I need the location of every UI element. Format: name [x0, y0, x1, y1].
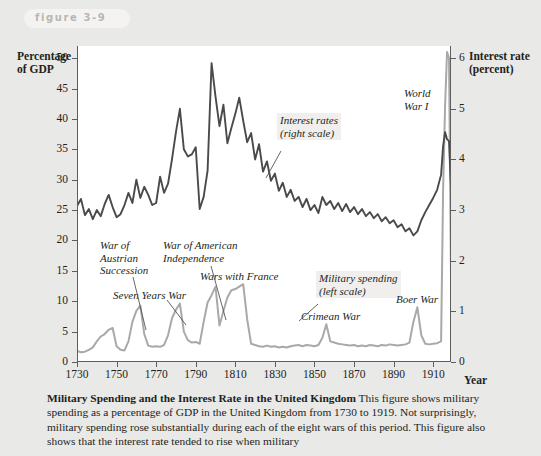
x-tick-label-1850: 1850	[294, 368, 334, 380]
x-tick-1750	[117, 362, 118, 367]
y-right-tick-0	[451, 362, 456, 363]
x-tick-1730	[77, 362, 78, 367]
y-right-tick-label-5: 5	[459, 102, 479, 114]
y-left-tick-10	[72, 301, 77, 302]
y-axis-right-title: Interest rate (percent)	[469, 50, 541, 76]
x-tick-label-1910: 1910	[413, 368, 453, 380]
y-left-tick-35	[72, 149, 77, 150]
y-left-tick-label-5: 5	[42, 325, 68, 337]
x-tick-1830	[275, 362, 276, 367]
chart-plot-area	[77, 46, 451, 362]
figure-root: figure 3-9 Percentage of GDP Interest ra…	[0, 0, 541, 456]
x-tick-label-1890: 1890	[374, 368, 414, 380]
y-left-tick-label-15: 15	[42, 264, 68, 276]
y-left-tick-label-40: 40	[42, 112, 68, 124]
y-right-tick-5	[451, 109, 456, 110]
figure-number-badge: figure 3-9	[24, 9, 130, 28]
y-left-tick-label-35: 35	[42, 142, 68, 154]
y-left-tick-label-50: 50	[42, 51, 68, 63]
x-tick-1770	[156, 362, 157, 367]
annotation-interest-rates-right-scale: Interest rates (right scale)	[277, 113, 341, 140]
y-left-tick-50	[72, 58, 77, 59]
x-tick-label-1810: 1810	[215, 368, 255, 380]
x-tick-label-1790: 1790	[176, 368, 216, 380]
y-left-tick-label-30: 30	[42, 173, 68, 185]
interest-rate-line	[77, 63, 451, 235]
x-tick-1850	[314, 362, 315, 367]
y-left-tick-label-45: 45	[42, 82, 68, 94]
figure-caption-lead: Military Spending and the Interest Rate …	[47, 392, 356, 404]
y-left-tick-5	[72, 332, 77, 333]
y-left-tick-45	[72, 89, 77, 90]
x-tick-label-1830: 1830	[255, 368, 295, 380]
plot-canvas	[77, 46, 451, 362]
annotation-war-of-american-independence: War of American Independence	[163, 239, 238, 264]
annotation-wars-with-france: Wars with France	[200, 270, 278, 283]
x-tick-1910	[433, 362, 434, 367]
y-left-tick-40	[72, 119, 77, 120]
y-right-tick-2	[451, 261, 456, 262]
y-right-tick-label-3: 3	[459, 203, 479, 215]
annotation-military-spending-left-scale: Military spending (left scale)	[316, 271, 401, 298]
y-left-tick-label-25: 25	[42, 203, 68, 215]
annotation-world-war-one: World War I	[404, 87, 431, 112]
x-tick-1810	[235, 362, 236, 367]
annotation-seven-years-war: Seven Years War	[113, 289, 186, 302]
x-tick-1790	[196, 362, 197, 367]
x-tick-1890	[394, 362, 395, 367]
y-right-tick-label-4: 4	[459, 152, 479, 164]
y-left-tick-label-10: 10	[42, 294, 68, 306]
y-right-tick-label-1: 1	[459, 304, 479, 316]
y-left-tick-30	[72, 180, 77, 181]
y-right-tick-4	[451, 159, 456, 160]
x-tick-label-1870: 1870	[334, 368, 374, 380]
y-left-tick-15	[72, 271, 77, 272]
y-left-tick-25	[72, 210, 77, 211]
y-left-tick-label-0: 0	[42, 355, 68, 367]
y-right-tick-3	[451, 210, 456, 211]
annotation-boer-war: Boer War	[396, 293, 438, 306]
y-right-tick-1	[451, 311, 456, 312]
x-tick-label-1750: 1750	[97, 368, 137, 380]
annotation-crimean-war: Crimean War	[301, 310, 360, 323]
x-tick-label-1730: 1730	[57, 368, 97, 380]
y-left-tick-20	[72, 240, 77, 241]
annotation-war-of-austrian-succession: War of Austrian Succession	[100, 239, 148, 277]
y-right-tick-label-2: 2	[459, 254, 479, 266]
x-tick-label-1770: 1770	[136, 368, 176, 380]
y-left-tick-label-20: 20	[42, 233, 68, 245]
figure-number-label: figure 3-9	[35, 12, 106, 23]
y-right-tick-label-6: 6	[459, 51, 479, 63]
x-tick-1870	[354, 362, 355, 367]
y-right-tick-6	[451, 58, 456, 59]
y-right-tick-label-0: 0	[459, 355, 479, 367]
figure-caption: Military Spending and the Interest Rate …	[47, 391, 499, 448]
